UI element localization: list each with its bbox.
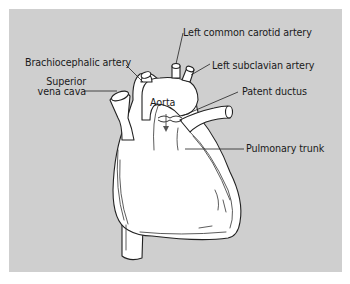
label-left-subclavian-artery: Left subclavian artery — [212, 60, 314, 71]
label-patent-ductus: Patent ductus — [242, 86, 307, 97]
leader-left-common-carotid — [176, 33, 183, 64]
label-aorta: Aorta — [150, 97, 175, 108]
label-superior-vena-cava-line2: vena cava — [30, 86, 86, 97]
label-pulmonary-trunk: Pulmonary trunk — [246, 143, 324, 154]
heart-illustration — [0, 0, 350, 284]
label-left-common-carotid-artery: Left common carotid artery — [183, 27, 312, 38]
label-brachiocephalic-artery: Brachiocephalic artery — [25, 57, 131, 68]
